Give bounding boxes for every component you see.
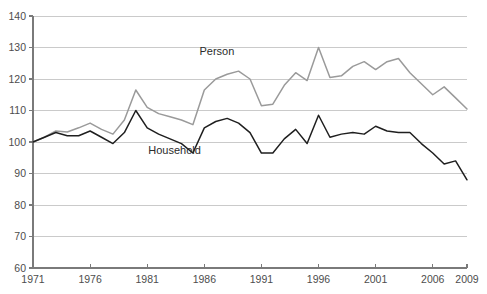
x-tick-label: 2006 [421, 273, 445, 285]
x-tick-label: 1971 [21, 273, 45, 285]
x-tick-label: 1976 [78, 273, 102, 285]
y-tick-label: 140 [8, 10, 26, 22]
y-tick-label: 80 [14, 199, 26, 211]
x-tick-label: 2009 [455, 273, 479, 285]
x-tick-label: 1996 [307, 273, 331, 285]
x-tick-label: 1981 [136, 273, 160, 285]
line-chart: 60708090100110120130140 1971197619811986… [0, 0, 487, 294]
y-tick-label: 70 [14, 230, 26, 242]
x-tick-marks-group [33, 264, 467, 268]
x-tick-label: 1986 [193, 273, 217, 285]
y-axis-tick-labels: 60708090100110120130140 [8, 10, 26, 274]
y-tick-label: 110 [9, 104, 26, 116]
y-tick-label: 120 [8, 73, 26, 85]
series-line-person [33, 48, 467, 143]
gridlines-group [33, 16, 467, 268]
series-label-person: Person [199, 45, 234, 57]
y-tick-label: 130 [8, 41, 26, 53]
series-line-household [33, 111, 467, 180]
y-tick-label: 90 [14, 167, 26, 179]
x-tick-label: 1991 [250, 273, 274, 285]
x-axis-tick-labels: 197119761981198619911996200120062009 [21, 273, 479, 285]
y-tick-label: 100 [8, 136, 26, 148]
chart-container: 60708090100110120130140 1971197619811986… [0, 0, 487, 294]
y-tick-label: 60 [14, 262, 26, 274]
x-tick-label: 2001 [364, 273, 388, 285]
series-label-household: Household [148, 144, 201, 156]
